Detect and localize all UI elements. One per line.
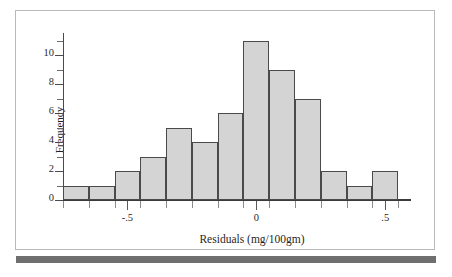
histogram-bar bbox=[218, 113, 244, 200]
x-tick bbox=[347, 201, 348, 208]
histogram-plot-area: 0246810 -.50.5 bbox=[63, 33, 411, 201]
histogram-bar bbox=[347, 186, 373, 200]
x-tick bbox=[89, 201, 90, 208]
bottom-rule bbox=[16, 256, 436, 263]
y-tick-major bbox=[55, 171, 63, 172]
x-tick-label: -.5 bbox=[122, 212, 133, 223]
y-tick-major bbox=[55, 200, 63, 201]
x-tick-major bbox=[256, 201, 257, 210]
x-tick bbox=[140, 201, 141, 208]
histogram-bar bbox=[372, 171, 398, 200]
histogram-bar bbox=[192, 142, 218, 200]
x-tick-label: .5 bbox=[381, 212, 389, 223]
y-tick-label: 6 bbox=[49, 105, 54, 116]
histogram-bar bbox=[243, 41, 269, 200]
x-axis-title: Residuals (mg/100gm) bbox=[78, 233, 426, 245]
x-tick bbox=[115, 201, 116, 208]
x-tick bbox=[243, 201, 244, 208]
y-tick-minor bbox=[57, 128, 63, 129]
y-tick-label: 4 bbox=[49, 134, 54, 145]
histogram-bar bbox=[166, 128, 192, 200]
x-tick bbox=[295, 201, 296, 208]
histogram-bar bbox=[89, 186, 115, 200]
histogram-bar bbox=[321, 171, 347, 200]
x-tick bbox=[166, 201, 167, 208]
figure-frame: Frequency 0246810 -.50.5 Residuals (mg/1… bbox=[15, 10, 435, 250]
x-tick bbox=[321, 201, 322, 208]
x-tick bbox=[398, 201, 399, 208]
x-tick-major bbox=[385, 201, 386, 210]
histogram-bar bbox=[269, 70, 295, 200]
y-tick-major bbox=[55, 55, 63, 56]
y-tick-label: 0 bbox=[49, 192, 54, 203]
histogram-bar bbox=[63, 186, 89, 200]
histogram-bar bbox=[115, 171, 141, 200]
x-tick-major bbox=[127, 201, 128, 210]
histogram-bar bbox=[295, 99, 321, 200]
y-tick-minor bbox=[57, 99, 63, 100]
y-tick-label: 8 bbox=[49, 76, 54, 87]
histogram-bar bbox=[140, 157, 166, 200]
y-tick-minor bbox=[57, 41, 63, 42]
y-tick-minor bbox=[57, 157, 63, 158]
x-tick bbox=[372, 201, 373, 208]
y-tick-major bbox=[55, 84, 63, 85]
x-tick-label: 0 bbox=[254, 212, 259, 223]
x-tick bbox=[269, 201, 270, 208]
y-tick-label: 2 bbox=[49, 163, 54, 174]
y-tick-major bbox=[55, 142, 63, 143]
y-tick-minor bbox=[57, 70, 63, 71]
y-axis-spine bbox=[63, 33, 64, 201]
x-tick bbox=[63, 201, 64, 208]
y-tick-label: 10 bbox=[44, 47, 55, 58]
x-tick bbox=[218, 201, 219, 208]
x-tick bbox=[192, 201, 193, 208]
y-tick-major bbox=[55, 113, 63, 114]
